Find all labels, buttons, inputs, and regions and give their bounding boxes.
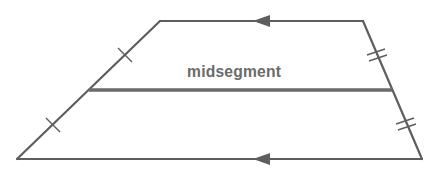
midsegment-label: midsegment [187,62,281,82]
parallel-arrow-bottom-icon [253,153,270,165]
parallel-arrow-top-icon [253,15,270,27]
